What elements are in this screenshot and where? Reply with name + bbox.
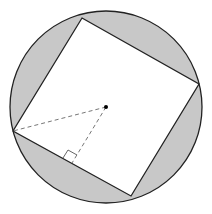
center-point (104, 105, 108, 109)
diagram (0, 0, 212, 214)
